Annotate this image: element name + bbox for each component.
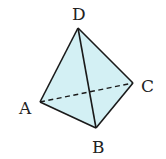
vertex-label-d: D [72, 4, 86, 24]
tetrahedron-diagram: D A B C [0, 0, 166, 159]
vertex-label-c: C [141, 76, 154, 96]
vertex-label-b: B [92, 137, 105, 157]
vertex-label-a: A [18, 98, 32, 118]
